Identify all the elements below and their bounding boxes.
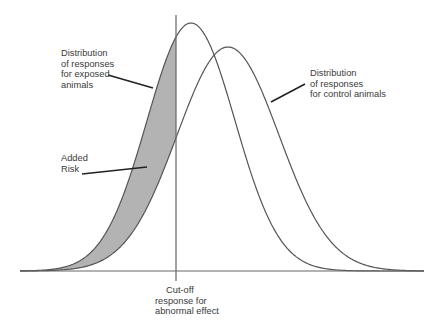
control-label-leader-line [271, 84, 305, 102]
control-label-line: of responses [310, 79, 386, 90]
exposed-distribution-label: Distribution of responses for exposed an… [61, 48, 114, 90]
exposed-label-line: of responses [61, 59, 114, 70]
control-label-line: Distribution [310, 68, 386, 79]
cutoff-label-line: Cut-off [155, 285, 219, 296]
control-distribution-label: Distribution of responses for control an… [310, 68, 386, 100]
exposed-label-line: animals [61, 80, 114, 91]
control-label-line: for control animals [310, 89, 386, 100]
exposed-label-leader-line [108, 75, 153, 88]
cutoff-label-line: abnormal effect [155, 306, 219, 317]
added-risk-label: Added Risk [61, 153, 88, 174]
exposed-label-line: Distribution [61, 48, 114, 59]
exposed-label-line: for exposed [61, 69, 114, 80]
added-risk-label-line: Risk [61, 164, 88, 175]
added-risk-label-line: Added [61, 153, 88, 164]
cutoff-label-line: response for [155, 296, 219, 307]
cutoff-label: Cut-off response for abnormal effect [155, 285, 219, 317]
